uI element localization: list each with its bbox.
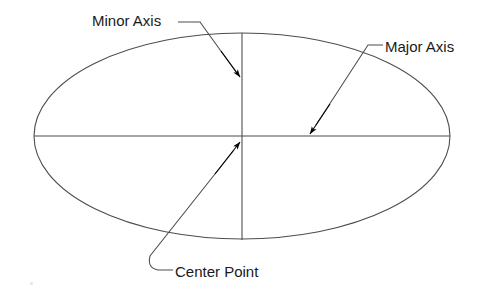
major-axis-leader-arrow — [310, 104, 330, 134]
label-major-axis: Major Axis — [385, 39, 454, 54]
label-center-point: Center Point — [175, 264, 258, 279]
center-point-leader-line — [149, 150, 234, 270]
center-point-leader-arrow — [215, 142, 240, 174]
scan-artifact-speck — [30, 282, 33, 285]
diagram-canvas: Minor Axis Major Axis Center Point — [0, 0, 491, 299]
minor-axis-leader-arrow — [221, 51, 240, 77]
minor-axis-leader-line — [178, 22, 236, 72]
major-axis-leader-line — [316, 45, 383, 125]
label-minor-axis: Minor Axis — [92, 13, 161, 28]
